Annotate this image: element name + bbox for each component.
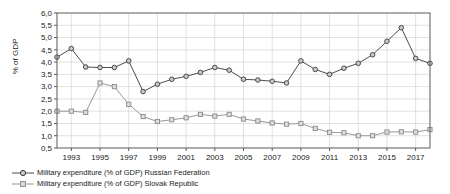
chart-legend: Military expenditure (% of GDP) Russian … (12, 168, 210, 189)
data-point-marker (141, 114, 145, 118)
data-point-marker (227, 112, 231, 116)
data-point-marker (313, 126, 317, 130)
data-point-marker (284, 122, 288, 126)
data-point-marker (356, 61, 361, 66)
data-point-marker (313, 67, 318, 72)
legend-key-russian-federation (12, 168, 34, 178)
data-point-marker (198, 70, 203, 75)
y-tick-label: 1,0 (41, 132, 53, 141)
legend-item: Military expenditure (% of GDP) Slovak R… (12, 179, 210, 190)
data-point-marker (84, 110, 88, 114)
data-point-marker (69, 109, 73, 113)
y-axis-tick-labels: 0,51,01,52,02,53,03,54,04,55,05,56,0 (41, 9, 53, 153)
data-point-marker (370, 52, 375, 57)
y-tick-label: 5,0 (41, 33, 53, 42)
x-tick-label: 2017 (407, 153, 425, 162)
data-point-marker (241, 77, 246, 82)
data-point-marker (327, 72, 332, 77)
data-point-marker (399, 130, 403, 134)
data-point-marker (299, 59, 304, 64)
data-point-marker (342, 131, 346, 135)
data-point-marker (83, 65, 88, 70)
y-tick-label: 4,0 (41, 58, 53, 67)
data-point-marker (127, 102, 131, 106)
chart-figure: % of GDP 0,51,01,52,02,53,03,54,04,55,05… (0, 0, 450, 194)
data-point-marker (170, 118, 174, 122)
data-point-marker (414, 130, 418, 134)
x-tick-label: 1995 (91, 153, 109, 162)
data-point-marker (126, 59, 131, 64)
data-point-marker (69, 46, 74, 51)
data-point-marker (327, 130, 331, 134)
y-tick-label: 0,5 (41, 144, 53, 153)
y-tick-label: 5,5 (41, 21, 53, 30)
legend-key-slovak-republic (12, 179, 34, 189)
data-point-marker (399, 25, 404, 30)
x-tick-label: 2009 (292, 153, 310, 162)
x-tick-label: 1999 (149, 153, 167, 162)
data-point-marker (155, 82, 160, 87)
data-point-marker (413, 56, 418, 61)
x-tick-label: 2003 (206, 153, 224, 162)
data-point-marker (284, 81, 289, 86)
x-tick-label: 1997 (120, 153, 138, 162)
gridlines (54, 13, 430, 151)
data-point-marker (98, 65, 103, 70)
data-point-marker (371, 134, 375, 138)
data-point-marker (385, 130, 389, 134)
x-tick-label: 2001 (177, 153, 195, 162)
data-point-marker (184, 116, 188, 120)
x-tick-label: 2007 (263, 153, 281, 162)
legend-item: Military expenditure (% of GDP) Russian … (12, 168, 210, 179)
data-point-marker (112, 85, 116, 89)
x-tick-label: 2005 (235, 153, 253, 162)
x-tick-label: 1993 (62, 153, 80, 162)
data-point-marker (213, 65, 218, 70)
chart-plot-area: 0,51,01,52,02,53,03,54,04,55,05,56,0 199… (0, 0, 450, 194)
y-tick-label: 3,0 (41, 82, 53, 91)
x-axis-tick-labels: 1993199519971999200120032005200720092011… (62, 153, 425, 162)
data-point-marker (256, 78, 261, 83)
data-point-marker (98, 81, 102, 85)
y-tick-label: 4,5 (41, 46, 53, 55)
y-tick-label: 6,0 (41, 9, 53, 18)
data-point-marker (241, 117, 245, 121)
data-point-marker (169, 77, 174, 82)
data-point-marker (112, 65, 117, 70)
data-point-marker (385, 39, 390, 44)
y-tick-label: 1,5 (41, 119, 53, 128)
data-point-marker (299, 121, 303, 125)
data-point-marker (270, 121, 274, 125)
data-point-marker (270, 79, 275, 84)
x-tick-label: 2015 (378, 153, 396, 162)
legend-label-slovak-republic: Military expenditure (% of GDP) Slovak R… (37, 179, 198, 190)
data-point-marker (356, 134, 360, 138)
data-point-marker (213, 114, 217, 118)
y-tick-label: 2,5 (41, 95, 53, 104)
data-point-marker (141, 89, 146, 94)
y-tick-label: 3,5 (41, 70, 53, 79)
x-tick-label: 2013 (349, 153, 367, 162)
data-point-marker (256, 119, 260, 123)
y-tick-label: 2,0 (41, 107, 53, 116)
data-point-marker (184, 74, 189, 79)
data-point-marker (227, 68, 232, 73)
x-tick-label: 2011 (321, 153, 339, 162)
data-point-marker (155, 119, 159, 123)
legend-label-russian-federation: Military expenditure (% of GDP) Russian … (37, 168, 210, 179)
data-point-marker (342, 66, 347, 71)
data-point-marker (198, 112, 202, 116)
